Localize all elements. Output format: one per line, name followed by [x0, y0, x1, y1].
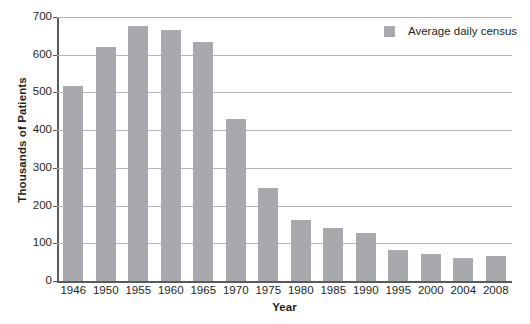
bar-2004 [453, 258, 473, 281]
gridline-600 [57, 55, 512, 56]
bar-1950 [96, 47, 116, 281]
gridline-300 [57, 168, 512, 169]
y-axis-tick-labels: 0100200300400500600700 [0, 0, 52, 300]
x-tick-label-2008: 2008 [476, 284, 516, 297]
bar-1970 [226, 119, 246, 281]
bar-2000 [421, 254, 441, 281]
gridline-500 [57, 92, 512, 93]
bar-2008 [486, 256, 506, 281]
plot-area [57, 17, 512, 281]
y-tick-label-600: 600 [6, 49, 52, 61]
y-tick-label-300: 300 [6, 162, 52, 174]
y-tick-label-200: 200 [6, 200, 52, 212]
gridline-700 [57, 17, 512, 18]
bar-1946 [63, 86, 83, 281]
legend-swatch-average-daily-census [384, 26, 395, 37]
y-tick-label-0: 0 [6, 275, 52, 287]
chart-legend: Average daily census [384, 25, 517, 37]
y-tick-label-700: 700 [6, 11, 52, 23]
gridline-0 [57, 281, 512, 283]
y-tick-label-400: 400 [6, 124, 52, 136]
x-axis-title: Year [57, 301, 512, 313]
bar-1980 [291, 220, 311, 281]
bar-1995 [388, 250, 408, 281]
x-axis-tick-labels: 1946195019551960196519701975198019851990… [57, 284, 512, 300]
bar-1955 [128, 26, 148, 281]
bar-1975 [258, 188, 278, 281]
gridline-200 [57, 206, 512, 207]
bar-1990 [356, 233, 376, 281]
legend-label-average-daily-census: Average daily census [408, 25, 517, 37]
gridline-400 [57, 130, 512, 131]
bar-1960 [161, 30, 181, 281]
bar-chart-figure: Thousands of Patients 010020030040050060… [0, 0, 530, 324]
gridline-100 [57, 243, 512, 244]
bar-1985 [323, 228, 343, 281]
y-tick-label-100: 100 [6, 237, 52, 249]
bar-1965 [193, 42, 213, 281]
y-tick-label-500: 500 [6, 86, 52, 98]
